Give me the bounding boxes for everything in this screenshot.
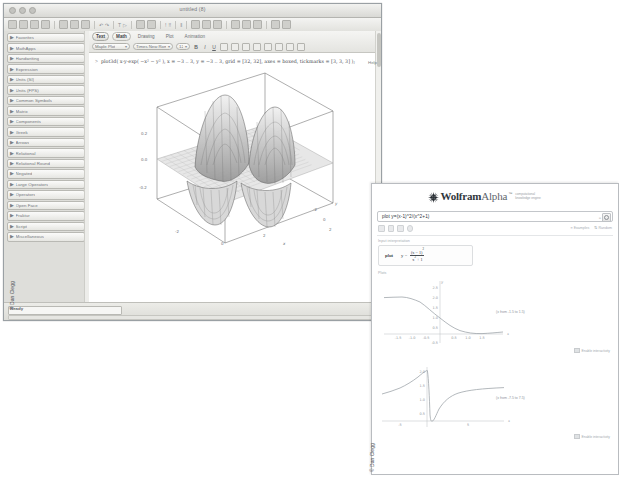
palette-item-units-fps[interactable]: ▶ Units (FPS) bbox=[7, 85, 85, 94]
context-toolbar[interactable]: Text Math Drawing Plot Animation Maple P… bbox=[89, 31, 381, 53]
palette-item-script[interactable]: ▶ Script bbox=[7, 222, 85, 231]
palette-item-miscellaneous[interactable]: ▶ Miscellaneous bbox=[7, 232, 85, 241]
keyboard-icon[interactable] bbox=[378, 225, 385, 232]
execute-all-icon[interactable]: !! bbox=[168, 22, 171, 28]
underline-button[interactable]: U bbox=[211, 44, 217, 50]
palette-item-relational[interactable]: ▶ Relational bbox=[7, 148, 85, 157]
expr-lhs: y bbox=[401, 253, 403, 258]
align-right-icon[interactable] bbox=[242, 43, 250, 51]
tab-text[interactable]: Text bbox=[92, 32, 109, 41]
palette-item-matrix[interactable]: ▶ Matrix bbox=[7, 106, 85, 115]
maple-title-bar[interactable]: untitled (8) bbox=[4, 4, 381, 18]
plot-card-2[interactable]: -55 2.01.5 1.00.5 x (x from -7.5 to 7.5)… bbox=[378, 363, 612, 441]
zoom-in-icon[interactable] bbox=[253, 20, 262, 29]
palette-item-negated[interactable]: ▶ Negated bbox=[7, 169, 85, 178]
arrow-icon[interactable] bbox=[213, 20, 222, 29]
svg-text:0.0: 0.0 bbox=[141, 157, 148, 162]
tools-icon[interactable] bbox=[271, 20, 280, 29]
worksheet-area[interactable]: Text Math Drawing Plot Animation Maple P… bbox=[88, 31, 381, 302]
palette-item-favorites[interactable]: ▶ Favorites bbox=[7, 33, 85, 42]
indent-icon[interactable] bbox=[275, 43, 283, 51]
palette-item-handwriting[interactable]: ▶ Handwriting bbox=[7, 54, 85, 63]
palette-item-operators[interactable]: ▶ Operators bbox=[7, 190, 85, 199]
svg-text:-1.0: -1.0 bbox=[409, 336, 416, 340]
plot-2-enable-interactivity[interactable]: Enable interactivity bbox=[574, 434, 610, 440]
execute-icon[interactable]: ! bbox=[165, 22, 166, 28]
font-family-select[interactable]: Times New Roman ▾ bbox=[133, 43, 173, 51]
examples-icon[interactable] bbox=[407, 225, 414, 232]
plot3d-output[interactable]: 0.20.0-0.2 -202 -202 y x bbox=[137, 55, 347, 251]
context-format-row[interactable]: Maple Plot ▾ Times New Roman ▾ 12 ▾ B I … bbox=[92, 42, 378, 51]
search-row[interactable]: plot y=(x-1)^2/(x^2+1) = bbox=[377, 211, 613, 222]
plot-1-enable-interactivity[interactable]: Enable interactivity bbox=[574, 348, 610, 354]
plot-1-annotation: (x from -1.5 to 1.5) bbox=[496, 310, 525, 314]
examples-link[interactable]: ≡ Examples bbox=[571, 226, 590, 230]
tab-plot[interactable]: Plot bbox=[162, 32, 178, 41]
debug-icon[interactable] bbox=[202, 20, 211, 29]
palette-item-arrows[interactable]: ▶ Arrows bbox=[7, 138, 85, 147]
cut-icon[interactable] bbox=[59, 20, 68, 29]
bullet-list-icon[interactable] bbox=[286, 43, 294, 51]
tab-math[interactable]: Math bbox=[112, 32, 131, 41]
align-left-icon[interactable] bbox=[220, 43, 228, 51]
zoom-100-icon[interactable] bbox=[242, 20, 251, 29]
wolfram-logo[interactable]: WolframAlpha ™ computationalknowledge en… bbox=[428, 191, 541, 202]
palette-item-units-si[interactable]: ▶ Units (SI) bbox=[7, 75, 85, 84]
svg-text:-0.5: -0.5 bbox=[431, 341, 438, 345]
help-link[interactable]: Help bbox=[368, 60, 377, 65]
search-input[interactable]: plot y=(x-1)^2/(x^2+1) bbox=[377, 211, 613, 222]
zoom-out-icon[interactable] bbox=[231, 20, 240, 29]
text-mode-icon[interactable]: T bbox=[118, 22, 121, 28]
quick-icons[interactable] bbox=[378, 225, 413, 232]
palette-item-large-operators[interactable]: ▶ Large Operators bbox=[7, 180, 85, 189]
redo-icon[interactable]: ↷ bbox=[105, 22, 109, 28]
open-icon[interactable] bbox=[19, 20, 28, 29]
tab-drawing[interactable]: Drawing bbox=[134, 32, 159, 41]
search-query-text[interactable]: plot y=(x-1)^2/(x^2+1) bbox=[382, 214, 430, 219]
palette-item-fraktur[interactable]: ▶ Fraktur bbox=[7, 211, 85, 220]
restart-icon[interactable] bbox=[191, 20, 200, 29]
new-document-icon[interactable] bbox=[8, 20, 17, 29]
italic-button[interactable]: I bbox=[202, 44, 208, 50]
maple-toolbar[interactable]: ↶ ↷ T ▷ ! !! ‖ bbox=[4, 18, 381, 32]
upload-icon[interactable] bbox=[397, 225, 404, 232]
palette-item-mathapps[interactable]: ▶ MathApps bbox=[7, 43, 85, 52]
tab-animation[interactable]: Animation bbox=[181, 32, 209, 41]
palette-item-expression[interactable]: ▶ Expression bbox=[7, 64, 85, 73]
maple-window[interactable]: untitled (8) ↶ ↷ T ▷ ! !! ‖ bbox=[3, 3, 382, 321]
scrollbar-thumb[interactable] bbox=[377, 33, 381, 67]
font-size-select[interactable]: 12 ▾ bbox=[176, 43, 190, 51]
header-links[interactable]: ≡ Examples ⇅ Random bbox=[571, 226, 612, 230]
paste-icon[interactable] bbox=[81, 20, 90, 29]
interrupt-icon[interactable]: ‖ bbox=[180, 22, 182, 28]
context-tab-row[interactable]: Text Math Drawing Plot Animation bbox=[92, 32, 378, 41]
align-justify-icon[interactable] bbox=[253, 43, 261, 51]
style-select[interactable]: Maple Plot ▾ bbox=[92, 43, 130, 51]
quick-action-row[interactable]: ≡ Examples ⇅ Random bbox=[378, 225, 612, 232]
align-center-icon[interactable] bbox=[231, 43, 239, 51]
outdent-icon[interactable] bbox=[264, 43, 272, 51]
section-icon[interactable] bbox=[136, 20, 145, 29]
palette-item-common-symbols[interactable]: ▶ Common Symbols bbox=[7, 96, 85, 105]
interactivity-icon bbox=[574, 434, 580, 440]
palette-item-greek[interactable]: ▶ Greek bbox=[7, 127, 85, 136]
plot-card-1[interactable]: -1.5-1.0-0.5 0.51.01.5 2.52.01.5 1.00.5-… bbox=[378, 277, 612, 355]
palette-sidebar[interactable]: ▶ Favorites ▶ MathApps ▶ Handwriting ▶ E… bbox=[4, 31, 88, 302]
undo-icon[interactable]: ↶ bbox=[99, 22, 103, 28]
help-icon[interactable] bbox=[282, 20, 291, 29]
random-link[interactable]: ⇅ Random bbox=[594, 226, 612, 230]
numbered-list-icon[interactable] bbox=[297, 43, 305, 51]
print-icon[interactable] bbox=[41, 20, 50, 29]
math-mode-icon[interactable]: ▷ bbox=[123, 22, 127, 28]
palette-vertical-scrollbar[interactable] bbox=[84, 31, 89, 302]
bold-button[interactable]: B bbox=[193, 44, 199, 50]
copy-icon[interactable] bbox=[70, 20, 79, 29]
extended-keyboard-icon[interactable] bbox=[388, 225, 395, 232]
save-icon[interactable] bbox=[30, 20, 39, 29]
subsection-icon[interactable] bbox=[147, 20, 156, 29]
palette-item-components[interactable]: ▶ Components bbox=[7, 117, 85, 126]
wolframalpha-window[interactable]: WolframAlpha ™ computationalknowledge en… bbox=[371, 183, 619, 475]
palette-item-open-face[interactable]: ▶ Open Face bbox=[7, 201, 85, 210]
submit-button[interactable] bbox=[602, 213, 611, 222]
palette-item-relational-round[interactable]: ▶ Relational Round bbox=[7, 159, 85, 168]
